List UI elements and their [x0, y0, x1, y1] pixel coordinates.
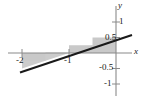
y-tick-label-0.5: 0.5: [105, 33, 116, 42]
area-left-lobe: [22, 53, 69, 69]
y-tick-label--1: -1: [104, 79, 112, 88]
riemann-sum-figure: -2 -1 1 0.5 -0.5 -1 y x: [0, 0, 145, 99]
plot-canvas: [0, 0, 145, 99]
x-tick-label--2: -2: [16, 56, 24, 65]
x-tick-label--1: -1: [64, 56, 72, 65]
x-axis-name-label: x: [134, 47, 138, 56]
y-axis-name-label: y: [118, 1, 122, 10]
y-tick-label--0.5: -0.5: [99, 63, 113, 72]
y-tick-label-1: 1: [119, 17, 124, 26]
